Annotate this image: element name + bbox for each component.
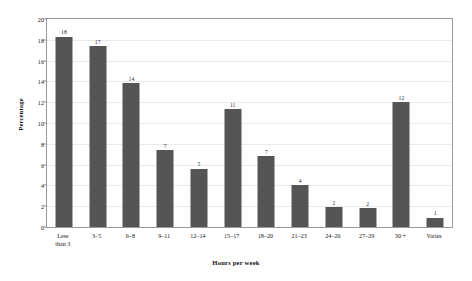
bar[interactable] [393,102,410,227]
bar[interactable] [359,208,376,227]
bar-value-label: 5 [197,161,200,167]
bar-slot: 5 [182,19,216,227]
x-axis-tick-label: 6–8 [126,233,135,241]
x-axis-tick-label: 18–20 [258,233,273,241]
bar-slot: 12 [385,19,419,227]
bar-slot: 2 [351,19,385,227]
bar-slot: 11 [216,19,250,227]
x-axis-ticks: Less than 33–56–89–1112–1415–1718–2021–2… [46,229,453,259]
bar-value-label: 7 [265,149,268,155]
x-axis-tick-label: Less than 3 [55,233,70,248]
bar-value-label: 2 [332,200,335,206]
x-axis-tick-label: 30 + [395,233,406,241]
x-axis-tick-label: 27–29 [359,233,374,241]
bar-value-label: 17 [95,39,101,45]
bar[interactable] [190,169,207,227]
bar[interactable] [89,46,106,227]
bar-value-label: 14 [129,76,135,82]
bar[interactable] [157,150,174,227]
bar-slot: 4 [283,19,317,227]
bar[interactable] [224,109,241,227]
bar-value-label: 1 [434,210,437,216]
bar-slot: 18 [47,19,81,227]
x-axis-title: Hours per week [0,259,472,266]
bar[interactable] [55,37,72,227]
bar-slot: 2 [317,19,351,227]
y-axis-title-text: Percentage [17,98,24,131]
plot-area: 02468101214161820 18171475117422121 [46,18,453,228]
x-axis-tick-label: 12–14 [190,233,205,241]
y-axis-title: Percentage [13,0,27,228]
bar-slot: 1 [418,19,452,227]
bar-series: 18171475117422121 [47,19,452,227]
bar-value-label: 12 [399,95,405,101]
x-axis-tick-label: 15–17 [224,233,239,241]
bar-value-label: 2 [366,201,369,207]
bar[interactable] [292,185,309,227]
bar-slot: 7 [148,19,182,227]
bar[interactable] [123,83,140,227]
bar-slot: 17 [81,19,115,227]
bar-slot: 7 [250,19,284,227]
bar-chart-figure: Percentage 02468101214161820 18171475117… [0,0,472,281]
bar-value-label: 11 [230,102,235,108]
bar[interactable] [258,156,275,227]
bar[interactable] [427,218,444,227]
x-axis-tick-label: 9–11 [158,233,170,241]
x-axis-tick-label: 3–5 [92,233,101,241]
x-axis-tick-label: 24–26 [325,233,340,241]
bar-value-label: 18 [61,29,67,35]
bar-slot: 14 [115,19,149,227]
x-axis-tick-label: Varies [427,233,442,241]
bar[interactable] [325,207,342,227]
bar-value-label: 7 [164,143,167,149]
bar-value-label: 4 [299,178,302,184]
x-axis-tick-label: 21–23 [292,233,307,241]
